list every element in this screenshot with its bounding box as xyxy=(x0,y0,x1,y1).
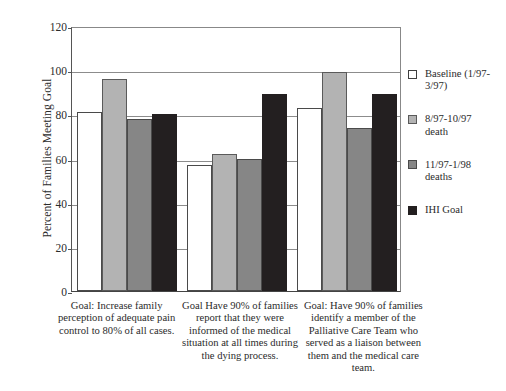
x-axis-category-label: Goal: Increase familyperception of adequ… xyxy=(49,300,184,337)
x-axis-category-label: Goal: Have 90% of familiesidentify a mem… xyxy=(296,300,431,374)
y-tick-label: 20 xyxy=(56,243,68,255)
legend-label-line: deaths xyxy=(425,171,504,183)
legend-item[interactable]: 8/97-10/97death xyxy=(408,113,504,137)
x-axis-category-labels: Goal: Increase familyperception of adequ… xyxy=(55,300,425,388)
legend-label-line: 3/97) xyxy=(425,80,504,92)
y-tick-label: 40 xyxy=(56,199,68,211)
legend-swatch-icon xyxy=(408,160,417,169)
category-label-line: the dying process. xyxy=(172,350,307,362)
legend-label-line: IHI Goal xyxy=(425,204,504,216)
bar-group xyxy=(292,28,402,291)
bar xyxy=(262,94,287,291)
y-tick-label: 80 xyxy=(56,111,68,123)
category-label-line: served as a liaison between xyxy=(296,337,431,349)
category-label-line: report that they were xyxy=(172,312,307,324)
category-label-line: control to 80% of all cases. xyxy=(49,325,184,337)
category-label-line: Goal Have 90% of families xyxy=(172,300,307,312)
legend-label-line: death xyxy=(425,126,504,138)
category-label-line: Palliative Care Team who xyxy=(296,325,431,337)
legend-item[interactable]: IHI Goal xyxy=(408,204,504,216)
category-label-line: Goal: Have 90% of families xyxy=(296,300,431,312)
legend-swatch-icon xyxy=(408,206,417,215)
bar-chart-figure: Percent of Families Meeting Goal 0204060… xyxy=(0,0,506,391)
category-label-line: Goal: Increase family xyxy=(49,300,184,312)
bar xyxy=(127,119,152,291)
category-label-line: situation at all times during xyxy=(172,337,307,349)
bar-group xyxy=(72,28,182,291)
y-tick-label: 120 xyxy=(50,22,67,34)
chart-legend: Baseline (1/97-3/97)8/97-10/97death11/97… xyxy=(408,68,504,237)
legend-label-line: 11/97-1/98 xyxy=(425,159,504,171)
bar xyxy=(347,128,372,291)
bar-group xyxy=(182,28,292,291)
y-tick-label: 0 xyxy=(61,287,67,299)
bar xyxy=(237,159,262,292)
bar xyxy=(187,165,212,291)
bar xyxy=(297,108,322,291)
legend-item[interactable]: Baseline (1/97-3/97) xyxy=(408,68,504,92)
bar xyxy=(322,72,347,291)
bar xyxy=(102,79,127,291)
legend-swatch-icon xyxy=(408,115,417,124)
category-label-line: them and the medical care xyxy=(296,350,431,362)
legend-swatch-icon xyxy=(408,70,417,79)
bar xyxy=(212,154,237,291)
plot-area: 020406080100120 xyxy=(71,27,401,292)
legend-label-line: Baseline (1/97- xyxy=(425,68,504,80)
category-label-line: identify a member of the xyxy=(296,312,431,324)
category-label-line: team. xyxy=(296,362,431,374)
y-tick-label: 60 xyxy=(56,155,68,167)
bar xyxy=(152,114,177,291)
bar xyxy=(372,94,397,291)
y-tick-label: 100 xyxy=(50,66,67,78)
y-tick-mark xyxy=(68,293,72,294)
x-axis-category-label: Goal Have 90% of familiesreport that the… xyxy=(172,300,307,362)
category-label-line: informed of the medical xyxy=(172,325,307,337)
legend-label-line: 8/97-10/97 xyxy=(425,113,504,125)
bar xyxy=(77,112,102,291)
legend-item[interactable]: 11/97-1/98deaths xyxy=(408,159,504,183)
category-label-line: perception of adequate pain xyxy=(49,312,184,324)
